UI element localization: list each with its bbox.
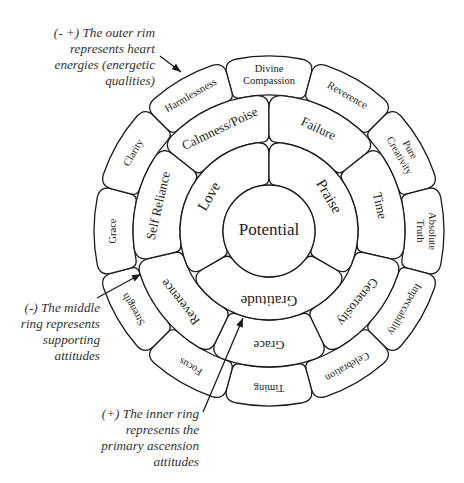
outer-rim-arrowhead-icon bbox=[172, 64, 181, 72]
annotation-line: represents heart bbox=[54, 41, 155, 57]
outer-rim-segment-absolute-truth: AbsoluteTruth bbox=[402, 188, 444, 274]
center-potential: Potential bbox=[223, 185, 315, 277]
outer-rim-label: Grace bbox=[107, 218, 118, 243]
middle-ring-segment-grace: Grace bbox=[214, 313, 324, 367]
annotation-line: qualities) bbox=[54, 73, 155, 89]
inner-ring-label: Gratitude bbox=[240, 292, 297, 308]
annotation-line: supporting bbox=[21, 332, 100, 348]
outer-rim-segment-grace: Grace bbox=[94, 188, 136, 274]
annotation-line: ring represents bbox=[21, 316, 100, 332]
outer-rim-segment-timing: Timing bbox=[226, 364, 312, 406]
annotation-line: represents the bbox=[101, 422, 199, 438]
outer-rim-segment-divine-compassion: DivineCompassion bbox=[226, 56, 312, 98]
annotation-line: (+) The inner ring bbox=[101, 406, 199, 422]
center-label: Potential bbox=[239, 220, 300, 239]
annotation-line: attitudes bbox=[21, 348, 100, 364]
inner-ring-annotation: (+) The inner ring represents the primar… bbox=[101, 406, 199, 470]
annotation-line: (-) The middle bbox=[21, 300, 100, 316]
outer-rim-label: Timing bbox=[253, 382, 284, 393]
annotation-line: energies (energetic bbox=[54, 57, 155, 73]
annotation-line: attitudes bbox=[101, 454, 199, 470]
annotation-line: primary ascension bbox=[101, 438, 199, 454]
middle-ring-label: Grace bbox=[253, 338, 284, 353]
annotation-line: (- +) The outer rim bbox=[54, 25, 155, 41]
middle-ring-annotation: (-) The middle ring represents supportin… bbox=[21, 300, 100, 364]
outer-rim-annotation: (- +) The outer rim represents heart ene… bbox=[54, 25, 155, 89]
